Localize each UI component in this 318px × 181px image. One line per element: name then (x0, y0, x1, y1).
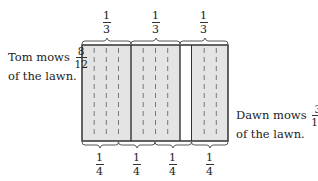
top-label-third-3: 1 3 (199, 10, 208, 35)
bottom-label-quarter-4: 1 4 (205, 152, 214, 177)
unshaded-region (180, 45, 192, 141)
dawn-label-prefix: Dawn mows (236, 108, 307, 122)
dawn-shaded-region (192, 45, 228, 141)
top-label-third-1: 1 3 (102, 10, 111, 35)
top-braces (82, 38, 228, 44)
dawn-label: Dawn mows 3 12 of the lawn. (236, 104, 318, 141)
tom-label: Tom mows 8 12 of the lawn. (8, 46, 89, 83)
dawn-fraction: 3 12 (310, 104, 318, 127)
tom-fraction: 8 12 (74, 46, 89, 69)
top-label-third-2: 1 3 (151, 10, 160, 35)
bottom-label-quarter-2: 1 4 (132, 152, 141, 177)
tom-label-line2: of the lawn. (8, 69, 89, 83)
tom-label-prefix: Tom mows (8, 50, 70, 64)
dawn-label-line2: of the lawn. (236, 127, 318, 141)
bottom-label-quarter-3: 1 4 (168, 152, 177, 177)
bottom-label-quarter-1: 1 4 (95, 152, 104, 177)
bottom-braces (82, 142, 228, 148)
